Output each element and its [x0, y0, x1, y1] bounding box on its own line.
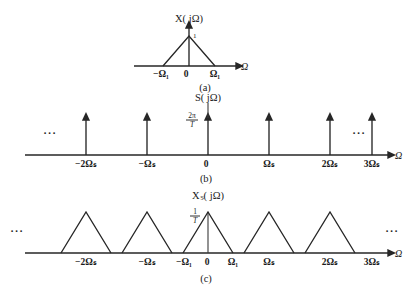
- panel-a-function-label: X( jΩ): [175, 13, 203, 25]
- panel-c-caption: (c): [200, 273, 212, 285]
- panel-c-tick-2ws: 2Ωₛ: [322, 257, 338, 267]
- panel-c-tick-zero: 0: [205, 257, 210, 267]
- panel-c-tick-ws: Ωₛ: [263, 257, 275, 267]
- panel-b: [25, 103, 388, 155]
- panel-b-ellipsis-left: ···: [43, 127, 56, 139]
- figure-container: X( jΩ) 1 −Ω₁ 0 Ω₁ Ω (a) S( jΩ) 2π T ··· …: [0, 0, 414, 292]
- panel-c-tick-minus-omega1: −Ω₁: [176, 257, 192, 267]
- panel-a-tick-zero: 0: [184, 69, 189, 79]
- panel-c-replica-minus-ws: [122, 212, 172, 253]
- panel-c-tick-minus-ws: −Ωₛ: [138, 257, 155, 267]
- panel-c-function-label: Xₛ( jΩ): [192, 190, 224, 202]
- panel-a-tick-minus-omega1: −Ω₁: [153, 69, 169, 79]
- panel-c-tick-minus-2ws: −2Ωₛ: [75, 257, 97, 267]
- panel-c-tick-3ws: 3Ωₛ: [364, 257, 380, 267]
- panel-b-ellipsis-right: ···: [352, 127, 365, 139]
- panel-b-tick-ws: Ωₛ: [263, 159, 275, 169]
- panel-c-amplitude-denominator: T: [193, 216, 198, 225]
- panel-a-tick-omega1: Ω₁: [210, 69, 221, 79]
- panel-c-tick-omega1: Ω₁: [228, 257, 239, 267]
- panel-b-caption: (b): [200, 173, 213, 185]
- panel-b-amplitude-denominator: T: [190, 120, 195, 129]
- panel-c-ellipsis-left: ···: [10, 225, 23, 237]
- panel-c-amplitude-numerator: 1: [193, 207, 197, 216]
- panel-a-axis-label: Ω: [241, 61, 248, 72]
- panel-b-function-label: S( jΩ): [195, 92, 222, 104]
- panel-c-replica-ws: [244, 212, 294, 253]
- panel-c-replica-minus-2ws: [61, 212, 111, 253]
- panel-b-tick-minus-ws: −Ωₛ: [138, 159, 155, 169]
- panel-c: [25, 212, 388, 253]
- signal-spectra-figure: X( jΩ) 1 −Ω₁ 0 Ω₁ Ω (a) S( jΩ) 2π T ··· …: [0, 0, 414, 292]
- panel-b-tick-3ws: 3Ωₛ: [364, 159, 380, 169]
- panel-b-tick-zero: 0: [204, 159, 209, 169]
- panel-a-peak-value-label: 1: [193, 32, 197, 40]
- panel-b-axis-label: Ω: [395, 150, 402, 161]
- panel-b-tick-minus-2ws: −2Ωₛ: [75, 159, 97, 169]
- panel-c-replica-2ws: [305, 212, 355, 253]
- panel-c-axis-label: Ω: [395, 248, 402, 259]
- panel-b-amplitude-numerator: 2π: [188, 111, 196, 120]
- panel-a: [134, 28, 236, 66]
- panel-b-tick-2ws: 2Ωₛ: [322, 159, 338, 169]
- panel-c-ellipsis-right: ···: [385, 225, 398, 237]
